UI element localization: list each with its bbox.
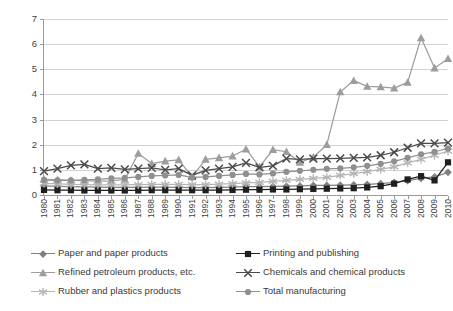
legend-marker-triangle-icon <box>31 267 55 278</box>
legend-marker-square-icon <box>236 248 260 259</box>
x-tick-label-1999: 1999 <box>295 199 304 218</box>
x-tick-label-1989: 1989 <box>161 199 170 218</box>
legend-item-rubber-and-plastics-products[interactable]: Rubber and plastics products <box>31 285 181 297</box>
legend-label: Chemicals and chemical products <box>263 266 405 278</box>
x-tick-label-1986: 1986 <box>120 199 129 218</box>
y-tick-label-2: 2 <box>32 140 37 150</box>
x-tick-label-1980: 1980 <box>40 199 49 218</box>
y-tick-label-3: 3 <box>32 115 37 125</box>
legend-item-chemicals-and-chemical-products[interactable]: Chemicals and chemical products <box>236 266 405 278</box>
x-tick-label-1982: 1982 <box>66 199 75 218</box>
plot-region: 01234567 1980198119821983198419851986198… <box>0 0 451 240</box>
y-tick-label-0: 0 <box>32 190 37 200</box>
x-tick-label-1996: 1996 <box>255 199 264 218</box>
legend-item-refined-petroleum-products-etc[interactable]: Refined petroleum products, etc. <box>31 266 195 278</box>
x-tick-label-1988: 1988 <box>147 199 156 218</box>
legend-label: Paper and paper products <box>58 247 168 259</box>
y-tick-label-6: 6 <box>32 39 37 49</box>
x-tick-label-1993: 1993 <box>215 199 224 218</box>
x-tick-label-1985: 1985 <box>107 199 116 218</box>
legend-marker-diamond-icon <box>31 248 55 259</box>
legend-marker-circle-icon <box>236 286 260 297</box>
legend-item-paper-and-paper-products[interactable]: Paper and paper products <box>31 247 168 259</box>
x-tick-label-2008: 2008 <box>417 199 426 218</box>
y-tick-label-7: 7 <box>32 14 37 24</box>
y-axis: 01234567 <box>0 0 44 240</box>
chart-legend: Paper and paper productsPrinting and pub… <box>31 247 443 305</box>
x-tick-label-2005: 2005 <box>376 199 385 218</box>
x-tick-label-2010: 2010 <box>444 199 453 218</box>
legend-label: Refined petroleum products, etc. <box>58 266 195 278</box>
y-tick-label-4: 4 <box>32 90 37 100</box>
x-tick-label-1990: 1990 <box>174 199 183 218</box>
x-tick-label-2002: 2002 <box>336 199 345 218</box>
x-tick-label-1995: 1995 <box>242 199 251 218</box>
x-tick-label-1987: 1987 <box>134 199 143 218</box>
x-tick-label-2003: 2003 <box>349 199 358 218</box>
x-tick-label-1983: 1983 <box>80 199 89 218</box>
legend-marker-star-icon <box>31 286 55 297</box>
y-tick-label-1: 1 <box>32 165 37 175</box>
legend-label: Printing and publishing <box>263 247 359 259</box>
plot-area <box>44 19 448 195</box>
legend-marker-cross-icon <box>236 267 260 278</box>
x-tick-label-2004: 2004 <box>363 199 372 218</box>
x-tick-label-1981: 1981 <box>53 199 62 218</box>
x-tick-label-1984: 1984 <box>93 199 102 218</box>
x-tick-label-2009: 2009 <box>430 199 439 218</box>
series-lines <box>44 19 448 195</box>
x-axis: 1980198119821983198419851986198719881989… <box>44 199 448 239</box>
legend-item-printing-and-publishing[interactable]: Printing and publishing <box>236 247 359 259</box>
y-tick-label-5: 5 <box>32 65 37 75</box>
x-tick-label-1992: 1992 <box>201 199 210 218</box>
x-tick-label-2000: 2000 <box>309 199 318 218</box>
x-tick-label-1997: 1997 <box>268 199 277 218</box>
x-tick-label-2006: 2006 <box>390 199 399 218</box>
legend-item-total-manufacturing[interactable]: Total manufacturing <box>236 285 346 297</box>
x-tick-label-1994: 1994 <box>228 199 237 218</box>
legend-label: Rubber and plastics products <box>58 285 181 297</box>
x-tick-label-1991: 1991 <box>188 199 197 218</box>
x-tick-label-2001: 2001 <box>322 199 331 218</box>
x-tick-label-1998: 1998 <box>282 199 291 218</box>
legend-label: Total manufacturing <box>263 285 346 297</box>
x-tick-label-2007: 2007 <box>403 199 412 218</box>
gridline-0 <box>44 195 448 196</box>
